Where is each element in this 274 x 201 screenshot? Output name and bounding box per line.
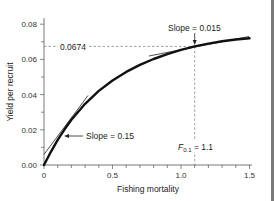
- y-tick-label: 0.00: [21, 161, 37, 170]
- y-ticks: [40, 24, 44, 165]
- yield-curve: [44, 38, 250, 165]
- x-tick-label: 0.5: [107, 171, 119, 180]
- right-border: [271, 0, 274, 201]
- y-axis-title: Yield per recruit: [5, 62, 15, 122]
- y-tick-label: 0.02: [21, 126, 37, 135]
- y-tick-label: 0.04: [21, 91, 37, 100]
- yield-per-recruit-chart: 0.00 0.02 0.04 0.06 0.08 0 0.5 1.0 1.5 F…: [0, 0, 274, 201]
- x-tick-label: 1.0: [175, 171, 187, 180]
- y-tick-label: 0.08: [21, 20, 37, 29]
- slope-low-label: Slope = 0.15: [86, 131, 134, 141]
- arrow-head-icon: [64, 134, 69, 138]
- arrow-head-icon: [193, 40, 197, 45]
- x-axis-title: Fishing mortality: [117, 184, 180, 194]
- f-value: = 1.1: [192, 142, 214, 152]
- slope-high-label: Slope = 0.015: [168, 23, 221, 33]
- x-tick-label: 0: [42, 171, 47, 180]
- x-ticks: [44, 165, 250, 169]
- tangent-line-low: [44, 96, 88, 155]
- hline-value-label: 0.0674: [60, 42, 86, 52]
- x-tick-label: 1.5: [244, 171, 256, 180]
- y-tick-label: 0.06: [21, 55, 37, 64]
